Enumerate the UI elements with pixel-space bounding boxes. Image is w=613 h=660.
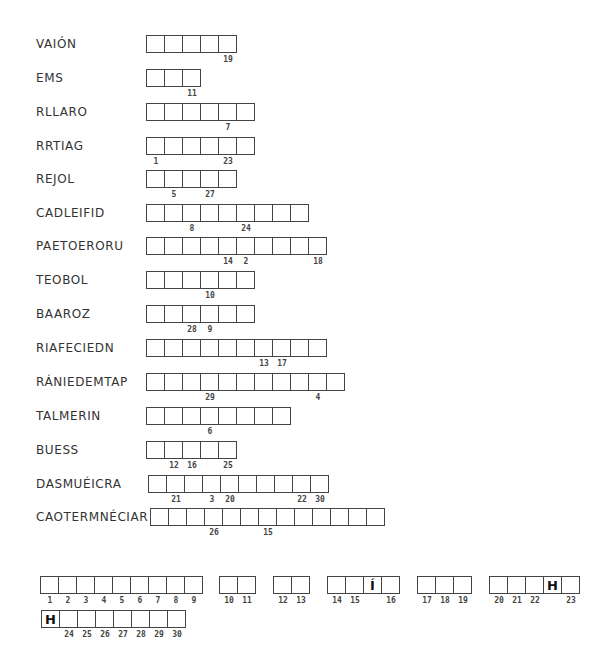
letter-box[interactable]: 15 xyxy=(258,508,276,526)
letter-box[interactable] xyxy=(146,407,164,425)
letter-box[interactable]: 17 xyxy=(272,339,290,357)
letter-box[interactable] xyxy=(146,339,164,357)
letter-box[interactable] xyxy=(256,475,274,493)
letter-box[interactable]: 18 xyxy=(308,237,327,255)
letter-box[interactable] xyxy=(218,407,236,425)
letter-box[interactable]: 21 xyxy=(166,475,184,493)
letter-box[interactable]: 26 xyxy=(95,610,113,628)
letter-box[interactable]: 15 xyxy=(345,576,363,594)
letter-box[interactable]: 29 xyxy=(200,373,218,391)
letter-box[interactable] xyxy=(164,35,182,53)
given-letter-box[interactable]: H xyxy=(543,576,561,594)
letter-box[interactable] xyxy=(236,103,255,121)
letter-box[interactable] xyxy=(290,373,308,391)
letter-box[interactable]: 29 xyxy=(149,610,167,628)
letter-box[interactable] xyxy=(182,170,200,188)
letter-box[interactable] xyxy=(276,508,294,526)
letter-box[interactable]: 30 xyxy=(310,475,329,493)
letter-box[interactable] xyxy=(164,305,182,323)
letter-box[interactable] xyxy=(164,103,182,121)
letter-box[interactable] xyxy=(182,373,200,391)
letter-box[interactable] xyxy=(200,103,218,121)
letter-box[interactable] xyxy=(148,475,166,493)
letter-box[interactable]: 10 xyxy=(200,271,218,289)
letter-box[interactable] xyxy=(254,204,272,222)
letter-box[interactable]: 27 xyxy=(113,610,131,628)
letter-box[interactable] xyxy=(254,237,272,255)
letter-box[interactable]: 3 xyxy=(76,576,94,594)
letter-box[interactable]: 2 xyxy=(236,237,254,255)
letter-box[interactable] xyxy=(168,508,186,526)
letter-box[interactable]: 26 xyxy=(204,508,222,526)
letter-box[interactable] xyxy=(146,103,164,121)
letter-box[interactable]: 13 xyxy=(291,576,310,594)
letter-box[interactable]: 28 xyxy=(182,305,200,323)
letter-box[interactable] xyxy=(238,475,256,493)
letter-box[interactable]: 19 xyxy=(218,35,237,53)
letter-box[interactable]: 9 xyxy=(184,576,203,594)
letter-box[interactable] xyxy=(274,475,292,493)
letter-box[interactable]: 20 xyxy=(489,576,507,594)
given-letter-box[interactable]: H xyxy=(41,610,59,628)
letter-box[interactable] xyxy=(200,35,218,53)
letter-box[interactable]: 19 xyxy=(453,576,472,594)
letter-box[interactable] xyxy=(272,237,290,255)
letter-box[interactable] xyxy=(290,339,308,357)
letter-box[interactable]: 2 xyxy=(58,576,76,594)
letter-box[interactable] xyxy=(218,170,237,188)
letter-box[interactable] xyxy=(182,339,200,357)
letter-box[interactable] xyxy=(236,339,254,357)
letter-box[interactable]: 28 xyxy=(131,610,149,628)
letter-box[interactable]: 1 xyxy=(40,576,58,594)
letter-box[interactable]: 13 xyxy=(254,339,272,357)
letter-box[interactable] xyxy=(272,373,290,391)
given-letter-box[interactable]: Í xyxy=(363,576,381,594)
letter-box[interactable] xyxy=(254,407,272,425)
letter-box[interactable] xyxy=(200,339,218,357)
letter-box[interactable] xyxy=(164,204,182,222)
letter-box[interactable] xyxy=(290,237,308,255)
letter-box[interactable] xyxy=(330,508,348,526)
letter-box[interactable]: 11 xyxy=(182,69,201,87)
letter-box[interactable]: 3 xyxy=(202,475,220,493)
letter-box[interactable] xyxy=(236,373,254,391)
letter-box[interactable]: 30 xyxy=(167,610,186,628)
letter-box[interactable]: 5 xyxy=(112,576,130,594)
letter-box[interactable] xyxy=(146,69,164,87)
letter-box[interactable] xyxy=(236,305,255,323)
letter-box[interactable] xyxy=(272,407,291,425)
letter-box[interactable] xyxy=(182,137,200,155)
letter-box[interactable]: 25 xyxy=(218,441,237,459)
letter-box[interactable]: 18 xyxy=(435,576,453,594)
letter-box[interactable] xyxy=(182,237,200,255)
letter-box[interactable] xyxy=(164,137,182,155)
letter-box[interactable]: 9 xyxy=(200,305,218,323)
letter-box[interactable]: 10 xyxy=(219,576,237,594)
letter-box[interactable] xyxy=(146,237,164,255)
letter-box[interactable] xyxy=(150,508,168,526)
letter-box[interactable] xyxy=(146,170,164,188)
letter-box[interactable]: 12 xyxy=(273,576,291,594)
letter-box[interactable]: 6 xyxy=(200,407,218,425)
letter-box[interactable] xyxy=(146,35,164,53)
letter-box[interactable]: 8 xyxy=(166,576,184,594)
letter-box[interactable]: 12 xyxy=(164,441,182,459)
letter-box[interactable]: 24 xyxy=(236,204,254,222)
letter-box[interactable] xyxy=(326,373,345,391)
letter-box[interactable] xyxy=(146,204,164,222)
letter-box[interactable]: 16 xyxy=(381,576,400,594)
letter-box[interactable]: 6 xyxy=(130,576,148,594)
letter-box[interactable] xyxy=(308,339,327,357)
letter-box[interactable] xyxy=(254,373,272,391)
letter-box[interactable]: 27 xyxy=(200,170,218,188)
letter-box[interactable]: 8 xyxy=(182,204,200,222)
letter-box[interactable]: 22 xyxy=(292,475,310,493)
letter-box[interactable] xyxy=(366,508,385,526)
letter-box[interactable] xyxy=(182,35,200,53)
letter-box[interactable]: 7 xyxy=(148,576,166,594)
letter-box[interactable] xyxy=(236,137,255,155)
letter-box[interactable]: 5 xyxy=(164,170,182,188)
letter-box[interactable] xyxy=(186,508,204,526)
letter-box[interactable]: 14 xyxy=(218,237,236,255)
letter-box[interactable]: 21 xyxy=(507,576,525,594)
